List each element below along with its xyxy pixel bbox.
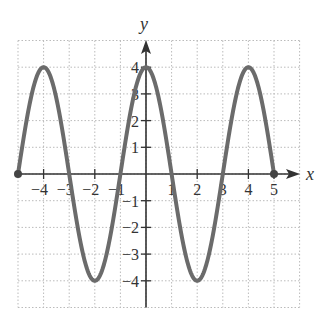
y-tick-label: −4 <box>122 273 139 290</box>
y-tick-label: 2 <box>131 113 139 130</box>
plot-area: xy−4−3−2−1123454321−1−2−3−4 <box>0 0 319 311</box>
y-axis-label: y <box>138 14 148 34</box>
x-tick-label: −2 <box>82 181 99 198</box>
x-tick-label: −4 <box>31 181 48 198</box>
y-tick-label: −2 <box>122 219 139 236</box>
x-tick-label: 2 <box>193 181 201 198</box>
x-axis-label: x <box>305 164 314 184</box>
y-tick-label: 4 <box>131 59 139 76</box>
y-tick-label: 1 <box>131 139 139 156</box>
endpoint-dot <box>270 170 278 178</box>
chart: xy−4−3−2−1123454321−1−2−3−4 <box>0 0 319 311</box>
y-tick-label: −3 <box>122 246 139 263</box>
endpoint-dot <box>14 170 22 178</box>
x-tick-label: 5 <box>270 181 278 198</box>
x-tick-label: 4 <box>244 181 252 198</box>
y-tick-label: −1 <box>122 193 139 210</box>
